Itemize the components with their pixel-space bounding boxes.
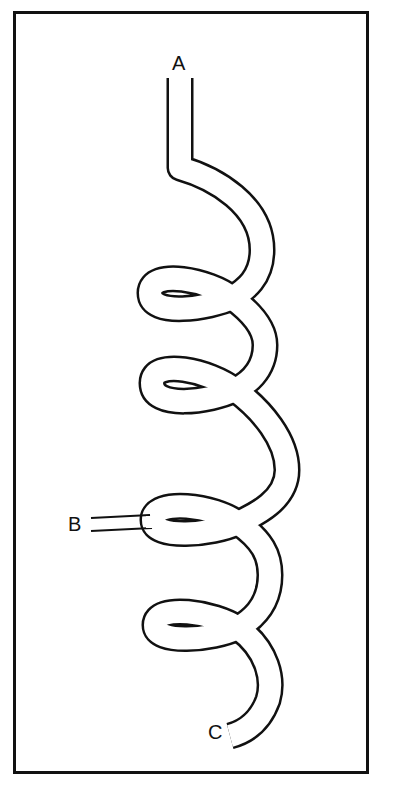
label-b: B — [68, 513, 81, 536]
label-c: C — [208, 721, 222, 744]
coil-tube — [150, 70, 287, 736]
label-a: A — [172, 52, 185, 75]
coil-diagram — [0, 0, 393, 787]
branch-tube-b — [91, 515, 158, 531]
